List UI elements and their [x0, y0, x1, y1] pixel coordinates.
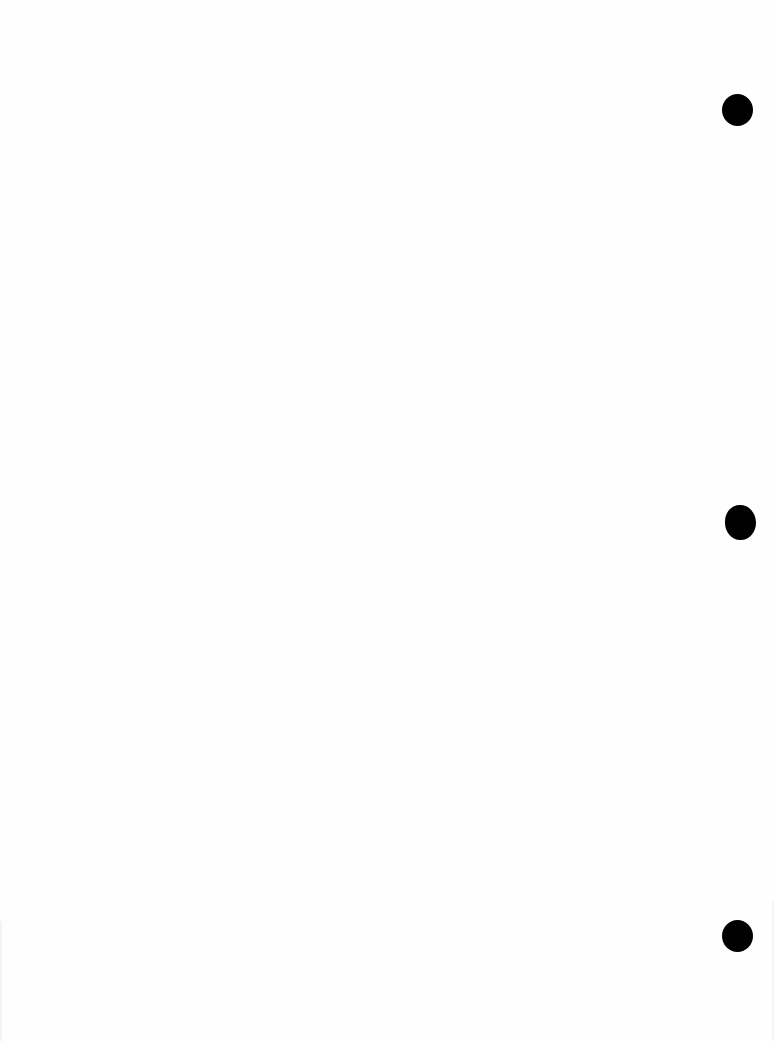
scanned-blank-page	[0, 0, 774, 1041]
punch-hole-bottom	[722, 920, 753, 952]
punch-hole-middle	[725, 505, 756, 540]
page-edge-shadow-left	[0, 921, 3, 1041]
punch-hole-top	[722, 94, 753, 126]
